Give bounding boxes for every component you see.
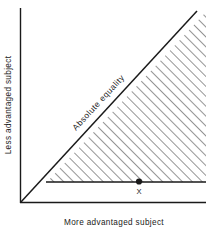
point-x-marker xyxy=(136,178,142,184)
inequality-diagram: X Absolute equality More advantaged subj… xyxy=(0,0,206,234)
point-x-label: X xyxy=(136,187,141,196)
x-axis-label: More advantaged subject xyxy=(64,218,164,227)
y-axis-label: Less advantaged subject xyxy=(4,55,13,154)
hatched-region xyxy=(47,12,206,182)
